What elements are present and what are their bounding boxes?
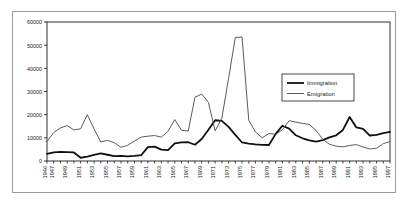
x-axis-tick-label: 1949	[62, 166, 68, 178]
x-axis-tick-label: 1981	[277, 166, 283, 178]
x-axis-tick-label: 1989	[331, 166, 337, 178]
x-axis-tick-label: 1985	[304, 166, 310, 178]
x-axis-tick-label: 1953	[89, 166, 95, 178]
x-axis-tick-label: 1991	[345, 166, 351, 178]
legend-box	[282, 74, 354, 101]
x-axis-tick-label: 1947	[49, 166, 55, 178]
x-axis-tick-label: 1993	[358, 166, 364, 178]
y-axis-tick-label: 30000	[27, 89, 42, 95]
x-axis-tick-label: 1963	[156, 166, 162, 178]
legend: ImmigrationEmigration	[282, 74, 354, 101]
x-axis-tick-label: 1973	[224, 166, 230, 178]
y-axis-tick-label: 50000	[27, 43, 42, 49]
x-axis-tick-label: 1997	[385, 166, 391, 178]
x-axis-tick-label: 1975	[237, 166, 243, 178]
x-axis-tick-label: 1959	[129, 166, 135, 178]
y-axis-tick-label: 0	[39, 158, 42, 164]
y-axis-tick-label: 20000	[27, 112, 42, 118]
y-axis-tick-label: 60000	[27, 19, 42, 25]
x-axis-tick-label: 1965	[170, 166, 176, 178]
x-axis-tick-label: 1957	[116, 166, 122, 178]
x-axis-tick-label: 1955	[103, 166, 109, 178]
line-chart: 0100002000030000400005000060000194619471…	[0, 0, 417, 206]
chart-figure: 0100002000030000400005000060000194619471…	[0, 0, 417, 206]
x-axis-tick-label: 1979	[264, 166, 270, 178]
y-axis-tick-label: 10000	[27, 135, 42, 141]
y-axis: 0100002000030000400005000060000	[27, 19, 47, 164]
x-axis-tick-label: 1971	[210, 166, 216, 178]
x-axis-tick-label: 1983	[291, 166, 297, 178]
legend-label-immigration: Immigration	[307, 80, 337, 86]
x-axis-tick-label: 1969	[197, 166, 203, 178]
x-axis-tick-label: 1951	[76, 166, 82, 178]
x-axis-tick-label: 1967	[183, 166, 189, 178]
x-axis: 1946194719491951195319551957195919611963…	[42, 161, 391, 178]
y-axis-tick-label: 40000	[27, 66, 42, 72]
x-axis-tick-label: 1946	[42, 166, 48, 178]
legend-label-emigration: Emigration	[307, 91, 335, 97]
x-axis-tick-label: 1961	[143, 166, 149, 178]
x-axis-tick-label: 1995	[372, 166, 378, 178]
x-axis-tick-label: 1977	[250, 166, 256, 178]
x-axis-tick-label: 1987	[318, 166, 324, 178]
